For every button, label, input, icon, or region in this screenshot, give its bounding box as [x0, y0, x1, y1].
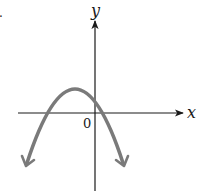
- graph-canvas: . y x 0: [0, 0, 199, 191]
- parabola-curve: [27, 89, 123, 163]
- x-axis-label: x: [187, 103, 196, 122]
- origin-label: 0: [83, 116, 91, 131]
- parabola-graph: . y x 0: [0, 0, 199, 191]
- y-axis-label: y: [90, 1, 101, 20]
- corner-mark: .: [0, 6, 3, 20]
